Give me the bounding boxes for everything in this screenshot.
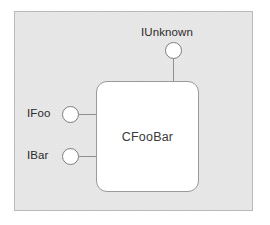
connector-line-ibar [79,156,97,157]
interface-label-iunknown: IUnknown [141,26,193,38]
component-name-label: CFooBar [97,82,198,191]
interface-label-ibar: IBar [27,149,49,161]
lollipop-iunknown[interactable] [165,42,182,59]
component-box[interactable]: CFooBar [96,81,199,192]
connector-line-iunknown [173,58,174,81]
lollipop-ibar[interactable] [62,148,79,165]
component-diagram: IUnknown IFoo IBar CFooBar [0,0,270,225]
interface-label-ifoo: IFoo [27,107,50,119]
connector-line-ifoo [79,114,97,115]
lollipop-ifoo[interactable] [62,106,79,123]
